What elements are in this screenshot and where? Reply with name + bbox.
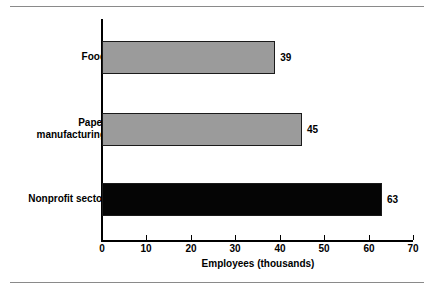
x-tick-mark <box>102 235 103 240</box>
x-axis-line <box>101 240 413 242</box>
chart-page: Food 39 Paper manufacturing 45 Nonprofit… <box>0 0 434 292</box>
x-tick-mark <box>146 235 147 240</box>
bar-paper-manufacturing <box>102 113 302 146</box>
x-tick-label: 0 <box>87 243 117 255</box>
x-tick-mark <box>191 235 192 240</box>
category-label-food: Food <box>0 51 106 63</box>
bar-chart-plot-area: Food 39 Paper manufacturing 45 Nonprofit… <box>0 0 434 292</box>
x-tick-mark <box>369 235 370 240</box>
bar-nonprofit-sector <box>102 183 382 216</box>
bar-value-food: 39 <box>280 52 291 63</box>
x-tick-mark <box>324 235 325 240</box>
x-tick-mark <box>235 235 236 240</box>
x-tick-mark <box>280 235 281 240</box>
category-label-paper-manufacturing: Paper manufacturing <box>0 117 106 141</box>
x-tick-label: 60 <box>354 243 384 255</box>
x-tick-label: 20 <box>176 243 206 255</box>
x-tick-label: 70 <box>398 243 428 255</box>
x-tick-label: 40 <box>265 243 295 255</box>
bar-value-nonprofit-sector: 63 <box>387 194 398 205</box>
x-axis-title: Employees (thousands) <box>102 258 414 270</box>
category-label-nonprofit-sector: Nonprofit sector <box>0 193 106 205</box>
bar-value-paper-manufacturing: 45 <box>307 124 318 135</box>
bar-food <box>102 41 275 74</box>
x-tick-label: 50 <box>309 243 339 255</box>
x-tick-label: 10 <box>131 243 161 255</box>
x-tick-mark <box>413 235 414 240</box>
x-tick-label: 30 <box>220 243 250 255</box>
